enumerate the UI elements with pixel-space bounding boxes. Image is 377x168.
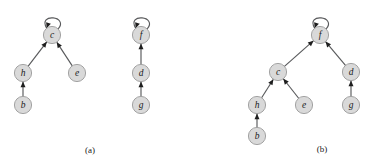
node-b[interactable]: b xyxy=(248,127,265,144)
node-c[interactable]: c xyxy=(43,26,60,43)
node-h[interactable]: h xyxy=(14,64,31,81)
arrowhead-g-to-d xyxy=(349,81,354,87)
node-f[interactable]: f xyxy=(311,26,328,43)
node-f[interactable]: f xyxy=(132,26,149,43)
panel-a-caption: (a) xyxy=(85,145,95,155)
forest-diagram-canvas: chebfdg(a)fcdhegb(b) xyxy=(0,0,377,168)
node-label-e: e xyxy=(302,100,306,110)
panel-b-edges xyxy=(255,41,354,128)
node-label-e: e xyxy=(75,68,79,78)
node-e[interactable]: e xyxy=(68,64,85,81)
panel-a: chebfdg(a) xyxy=(14,18,149,155)
figure-container: chebfdg(a)fcdhegb(b) xyxy=(0,0,377,168)
node-d[interactable]: d xyxy=(132,64,149,81)
node-e[interactable]: e xyxy=(295,96,312,113)
arrowhead-g-to-d xyxy=(139,82,144,88)
panel-a-nodes: chebfdg xyxy=(14,26,149,113)
node-h[interactable]: h xyxy=(248,96,265,113)
panel-a-self-loops xyxy=(45,18,150,29)
arrowhead-b-to-h xyxy=(255,114,260,120)
node-label-g: g xyxy=(139,100,144,110)
node-label-b: b xyxy=(255,131,260,141)
edge-c-to-f xyxy=(284,41,313,67)
panel-b: fcdhegb(b) xyxy=(248,18,359,154)
node-label-d: d xyxy=(349,67,354,77)
arrowhead-d-to-f xyxy=(139,44,144,50)
node-b[interactable]: b xyxy=(14,96,31,113)
node-label-d: d xyxy=(139,68,144,78)
node-label-b: b xyxy=(21,100,26,110)
node-g[interactable]: g xyxy=(132,96,149,113)
arrowhead-e-to-c xyxy=(57,42,62,48)
panel-b-caption: (b) xyxy=(317,144,328,154)
panel-b-nodes: fcdhegb xyxy=(248,26,359,144)
node-label-g: g xyxy=(349,100,354,110)
arrowhead-h-to-c xyxy=(268,79,273,85)
node-d[interactable]: d xyxy=(342,63,359,80)
node-c[interactable]: c xyxy=(269,63,286,80)
node-g[interactable]: g xyxy=(342,96,359,113)
node-label-h: h xyxy=(21,68,26,78)
arrowhead-b-to-h xyxy=(21,82,26,88)
node-label-h: h xyxy=(255,100,260,110)
